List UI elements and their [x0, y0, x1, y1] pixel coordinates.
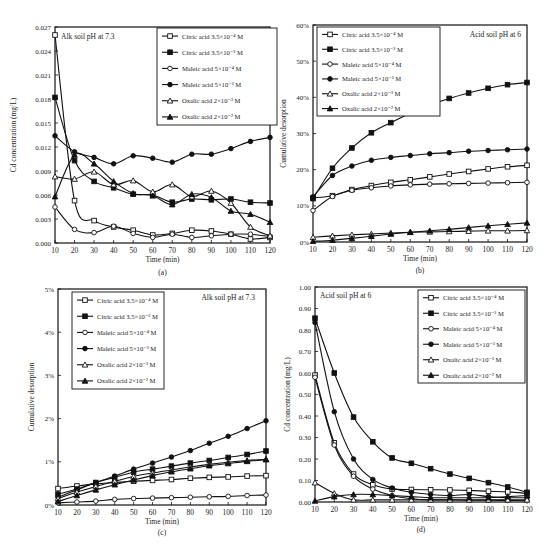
chart-annotation: Acid soil pH at 6: [470, 30, 521, 39]
legend-label: Oxalic acid 2×10⁻² M: [443, 372, 502, 379]
y-tick-label: 0.024: [35, 48, 51, 56]
y-tick-label: 0.40: [299, 413, 312, 421]
y-tick-label: 60%: [296, 22, 309, 30]
legend-label: Maleic acid 5×10⁻⁴ M: [443, 325, 503, 332]
legend: Citric acid 3.5×10⁻⁴ MCitric acid 3.5×10…: [157, 28, 277, 125]
legend: Citric acid 3.5×10⁻⁴ MCitric acid 3.5×10…: [72, 292, 164, 389]
series-line: [310, 228, 530, 240]
panel-label: (b): [416, 266, 425, 275]
x-tick-label: 50: [387, 245, 395, 254]
y-tick-label: 30%: [296, 130, 309, 138]
x-axis: 102030405060708090100110120: [309, 239, 533, 254]
y-tick-label: 20%: [296, 166, 309, 174]
y-tick-label: 0.012: [35, 144, 51, 152]
x-tick-label: 120: [521, 505, 533, 514]
y-tick-label: 5%: [45, 286, 55, 294]
x-tick-label: 100: [482, 245, 494, 254]
x-tick-label: 60: [408, 505, 416, 514]
x-tick-label: 80: [446, 505, 454, 514]
y-tick-label: 3%: [45, 372, 55, 380]
x-tick-label: 120: [521, 245, 533, 254]
x-tick-label: 90: [465, 245, 473, 254]
x-tick-label: 60: [149, 246, 157, 255]
y-axis-label: Cumulative desorption: [279, 99, 288, 168]
x-axis: 102030405060708090100110120: [54, 502, 272, 517]
legend-label: Citric acid 3.5×10⁻⁴ M: [342, 31, 403, 38]
chart-panel-d: 0.000.100.200.300.400.500.600.700.800.90…: [283, 284, 533, 535]
chart-panel-c: 0%1%2%3%4%5%102030405060708090100110120T…: [27, 286, 272, 538]
y-tick-label: 50%: [296, 58, 309, 66]
legend-label: Maleic acid 5×10⁻³ M: [443, 341, 502, 348]
x-tick-label: 70: [169, 246, 177, 255]
legend-label: Citric acid 3.5×10⁻³ M: [97, 313, 158, 320]
y-tick-label: 0.00: [299, 499, 312, 507]
y-tick-label: 0.006: [35, 192, 51, 200]
legend-label: Oxalic acid 2×10⁻³ M: [342, 90, 401, 97]
series-line: [313, 373, 530, 496]
x-tick-label: 100: [483, 505, 495, 514]
x-tick-label: 40: [111, 508, 119, 517]
legend-label: Citric acid 3.5×10⁻⁴ M: [97, 297, 158, 304]
series-line: [311, 180, 530, 213]
x-axis: 102030405060708090100110120: [311, 499, 533, 514]
y-tick-label: 10%: [296, 202, 309, 210]
series-line: [310, 220, 530, 244]
y-tick-label: 0.30: [299, 434, 312, 442]
x-tick-label: 70: [168, 508, 176, 517]
y-tick-label: 1%: [45, 458, 55, 466]
y-tick-label: 0.50: [299, 391, 312, 399]
legend-label: Oxalic acid 2×10⁻³ M: [182, 97, 241, 104]
chart-panel-a: 0.0000.0030.0060.0090.0120.0150.0180.021…: [9, 24, 277, 278]
chart-annotation: Alk soil pH at 7.3: [201, 293, 255, 302]
x-tick-label: 40: [369, 505, 377, 514]
x-tick-label: 90: [208, 246, 216, 255]
x-tick-label: 60: [407, 245, 415, 254]
x-tick-label: 40: [110, 246, 118, 255]
y-tick-label: 0.80: [299, 327, 312, 335]
x-tick-label: 40: [368, 245, 376, 254]
x-tick-label: 20: [73, 508, 81, 517]
y-tick-label: 0.021: [35, 72, 51, 80]
legend: Citric acid 3.5×10⁻⁴ MCitric acid 3.5×10…: [317, 27, 440, 116]
y-tick-label: 0.015: [35, 120, 51, 128]
y-axis-label: Cd concentration (mg/L): [9, 97, 18, 172]
x-tick-label: 120: [260, 508, 272, 517]
x-tick-label: 110: [502, 245, 513, 254]
legend-label: Oxalic acid 2×10⁻³ M: [443, 356, 502, 363]
y-tick-label: 0%: [45, 502, 55, 510]
legend-label: Maleic acid 5×10⁻³ M: [182, 81, 241, 88]
series-line: [56, 418, 269, 499]
x-tick-label: 50: [388, 505, 396, 514]
figure: 0.0000.0030.0060.0090.0120.0150.0180.021…: [0, 0, 556, 558]
x-tick-label: 100: [225, 246, 237, 255]
x-tick-label: 110: [245, 246, 256, 255]
y-tick-label: 4%: [45, 329, 55, 337]
x-tick-label: 30: [350, 505, 358, 514]
series-line: [56, 493, 269, 505]
y-tick-label: 0.20: [299, 456, 312, 464]
x-tick-label: 10: [311, 505, 319, 514]
panel-label: (d): [417, 525, 426, 534]
y-tick-label: 0%: [300, 239, 310, 247]
series-group: [55, 418, 269, 505]
legend-label: Citric acid 3.5×10⁻³ M: [443, 310, 504, 317]
y-tick-label: 0.000: [35, 240, 51, 248]
legend-label: Oxalic acid 2×10⁻² M: [342, 105, 401, 112]
x-tick-label: 10: [51, 246, 59, 255]
series-line: [53, 134, 273, 167]
x-axis-label: Time (min): [404, 514, 439, 523]
x-axis-label: Time (min): [403, 254, 438, 263]
legend-label: Maleic acid 5×10⁻⁴ M: [342, 61, 402, 68]
x-tick-label: 60: [149, 508, 157, 517]
y-tick-label: 0.009: [35, 168, 51, 176]
legend: Citric acid 3.5×10⁻⁴ MCitric acid 3.5×10…: [418, 290, 525, 383]
y-axis-label: Cumulative desorption: [27, 362, 36, 431]
figure-svg: 0.0000.0030.0060.0090.0120.0150.0180.021…: [0, 0, 556, 558]
y-tick-label: 0.018: [35, 96, 51, 104]
legend-label: Citric acid 3.5×10⁻³ M: [342, 46, 403, 53]
y-tick-label: 0.60: [299, 370, 312, 378]
x-tick-label: 10: [54, 508, 62, 517]
x-tick-label: 110: [242, 508, 253, 517]
x-tick-label: 80: [188, 246, 196, 255]
legend-label: Maleic acid 5×10⁻⁴ M: [97, 329, 157, 336]
